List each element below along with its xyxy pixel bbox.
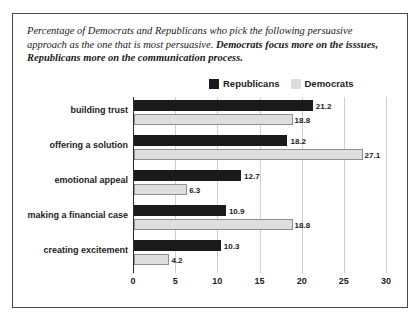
chart-figure: Percentage of Democrats and Republicans … <box>12 13 408 308</box>
legend-swatch-democrats-icon <box>291 79 301 89</box>
category-label: building trust <box>71 105 129 115</box>
chart-plot-area: building trust21.218.8offering a solutio… <box>133 97 386 273</box>
x-tick-label-30: 30 <box>381 276 391 286</box>
bar-republicans: 21.2 <box>134 100 313 111</box>
bar-republicans: 10.9 <box>134 205 226 216</box>
chart-x-axis-ticks: 051015202530 <box>133 276 386 290</box>
bar-value-label: 4.2 <box>171 255 182 264</box>
bar-value-label: 10.9 <box>229 206 245 215</box>
bar-democrats: 4.2 <box>134 254 169 265</box>
category-label: offering a solution <box>50 140 129 150</box>
bar-group: offering a solution18.227.1 <box>134 134 386 161</box>
x-tick-label-15: 15 <box>254 276 264 286</box>
bar-group: building trust21.218.8 <box>134 99 386 126</box>
legend-label-republicans: Republicans <box>223 78 280 89</box>
bar-value-label: 18.8 <box>295 220 311 229</box>
bar-group: creating excitement10.34.2 <box>134 239 386 266</box>
caption-line-2-plain: approach as the one that is most persuas… <box>27 39 216 50</box>
x-tick-label-0: 0 <box>130 276 135 286</box>
caption-line-2-bold: Democrats focus more on the isssues, <box>216 39 378 50</box>
bar-democrats: 18.8 <box>134 219 293 230</box>
chart-caption: Percentage of Democrats and Republicans … <box>27 24 387 65</box>
bar-value-label: 18.8 <box>295 115 311 124</box>
legend-entry-democrats: Democrats <box>291 78 354 89</box>
bar-republicans: 10.3 <box>134 240 221 251</box>
bar-value-label: 10.3 <box>224 241 240 250</box>
caption-line-1: Percentage of Democrats and Republicans … <box>27 25 352 36</box>
bar-value-label: 27.1 <box>365 150 381 159</box>
bar-democrats: 27.1 <box>134 149 363 160</box>
category-label: making a financial case <box>27 210 128 220</box>
bar-republicans: 12.7 <box>134 170 241 181</box>
legend-label-democrats: Democrats <box>305 78 354 89</box>
category-label: creating excitement <box>43 245 128 255</box>
x-tick-label-10: 10 <box>212 276 222 286</box>
x-tick-label-20: 20 <box>297 276 307 286</box>
category-label: emotional appeal <box>54 175 128 185</box>
x-tick-label-5: 5 <box>173 276 178 286</box>
legend-entry-republicans: Republicans <box>209 78 280 89</box>
chart-y-axis <box>133 97 134 273</box>
caption-line-3-bold: Republicans more on the communication pr… <box>27 52 243 63</box>
bar-value-label: 21.2 <box>316 101 332 110</box>
bar-democrats: 18.8 <box>134 114 293 125</box>
bar-democrats: 6.3 <box>134 184 187 195</box>
chart-legend: Republicans Democrats <box>209 78 354 89</box>
bar-republicans: 18.2 <box>134 135 287 146</box>
x-tick-label-25: 25 <box>339 276 349 286</box>
bar-value-label: 18.2 <box>290 136 306 145</box>
bar-group: emotional appeal12.76.3 <box>134 169 386 196</box>
bar-value-label: 12.7 <box>244 171 260 180</box>
legend-swatch-republicans-icon <box>209 79 219 89</box>
bar-value-label: 6.3 <box>189 185 200 194</box>
bar-group: making a financial case10.918.8 <box>134 204 386 231</box>
gridline-30 <box>386 97 387 273</box>
